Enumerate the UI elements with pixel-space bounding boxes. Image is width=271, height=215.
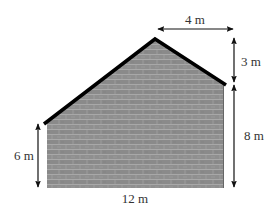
- left-height-label: 6 m: [14, 148, 34, 163]
- brick-wall: [47, 39, 224, 188]
- roof-rise-label: 3 m: [241, 54, 261, 69]
- peak-offset-label: 4 m: [185, 12, 205, 27]
- bottom-width-label: 12 m: [122, 191, 148, 206]
- right-height-label: 8 m: [244, 128, 264, 143]
- wall-diagram: 4 m 3 m 8 m 6 m 12 m: [0, 0, 271, 215]
